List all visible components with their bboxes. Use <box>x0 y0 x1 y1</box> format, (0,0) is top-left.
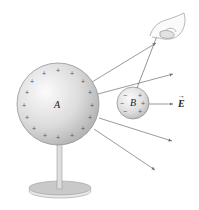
charge-plus: + <box>25 89 29 96</box>
charge-plus: + <box>88 114 92 121</box>
sphere-a-label: A <box>54 100 60 110</box>
field-vector-arrow: → <box>178 93 185 100</box>
figure-canvas <box>0 0 199 210</box>
stand <box>29 140 91 198</box>
charge-minus: − <box>120 100 124 107</box>
charge-plus: + <box>25 114 29 121</box>
charge-plus: + <box>42 70 46 77</box>
charge-plus: + <box>32 125 36 132</box>
field-line <box>99 118 172 141</box>
field-line <box>94 129 155 170</box>
charge-plus: + <box>138 92 142 99</box>
field-label: → E <box>178 99 185 109</box>
charge-plus: + <box>70 132 74 139</box>
charge-plus: + <box>88 89 92 96</box>
charge-plus: + <box>70 70 74 77</box>
charge-plus: + <box>56 134 60 141</box>
charge-plus: + <box>81 125 85 132</box>
charge-plus: + <box>56 67 60 74</box>
charge-plus: + <box>90 102 94 109</box>
insulating-rod <box>137 36 157 88</box>
charge-plus: + <box>30 78 34 85</box>
charge-plus: + <box>22 102 26 109</box>
electrostatics-figure: + + + + + + + + + + + + + + + + − − − + … <box>0 0 199 210</box>
hand-icon <box>150 13 185 39</box>
charge-plus: + <box>43 132 47 139</box>
charge-plus: + <box>81 78 85 85</box>
charge-plus: + <box>141 100 145 107</box>
charge-plus: + <box>138 108 142 115</box>
charge-minus: − <box>123 92 127 99</box>
sphere-b-label: B <box>130 98 136 108</box>
charge-minus: − <box>123 108 127 115</box>
